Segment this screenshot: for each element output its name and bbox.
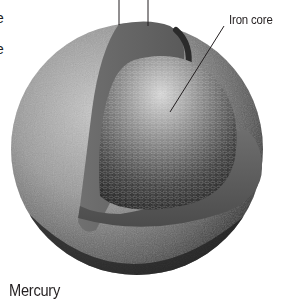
iron-core-label: Iron core — [229, 12, 273, 27]
planet-cutaway-illustration — [0, 0, 281, 303]
cropped-label-1: e — [0, 10, 4, 26]
mercury-interior-diagram: e e Iron core Mercury — [0, 0, 281, 303]
diagram-title: Mercury — [9, 281, 60, 301]
cropped-label-2: e — [0, 41, 4, 57]
